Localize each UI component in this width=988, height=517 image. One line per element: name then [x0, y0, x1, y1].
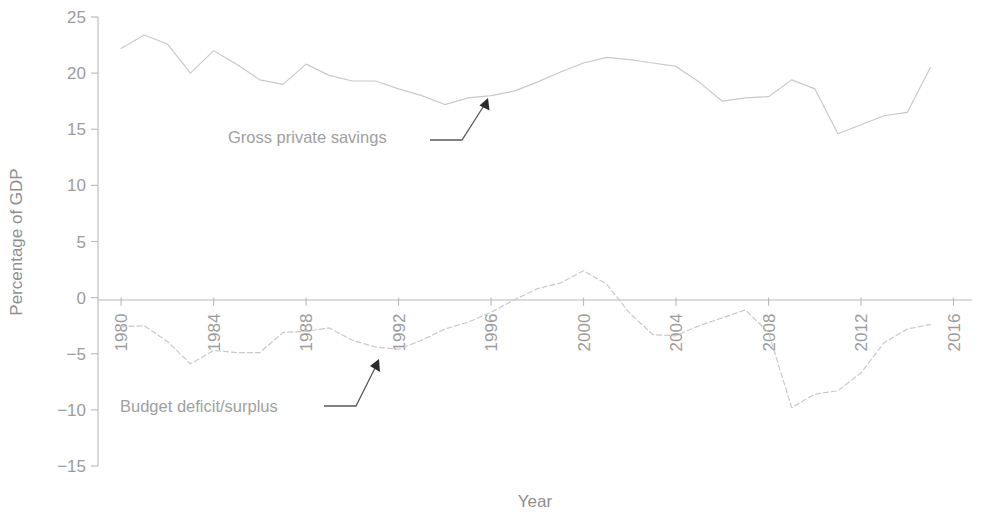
x-axis-title: Year	[518, 492, 553, 511]
y-tick-label: −15	[57, 457, 86, 476]
y-tick-label: 5	[77, 233, 86, 252]
x-tick-label: 1988	[297, 314, 316, 352]
gdp-savings-deficit-line-chart: −15−10−50510152025 198019841988199219962…	[0, 0, 988, 517]
y-tick-label: 15	[67, 120, 86, 139]
chart-background	[0, 0, 988, 517]
x-tick-label: 1992	[390, 314, 409, 352]
x-tick-label: 1980	[112, 314, 131, 352]
y-tick-label: 0	[77, 289, 86, 308]
y-tick-label: 20	[67, 64, 86, 83]
x-tick-label: 2012	[852, 314, 871, 352]
annotation-label-budget: Budget deficit/surplus	[120, 397, 278, 415]
x-tick-label: 2000	[575, 314, 594, 352]
x-tick-label: 1996	[482, 314, 501, 352]
y-tick-label: −10	[57, 401, 86, 420]
chart-figure: −15−10−50510152025 198019841988199219962…	[0, 0, 988, 517]
x-tick-label: 1984	[205, 314, 224, 352]
y-tick-label: −5	[67, 345, 86, 364]
y-tick-label: 25	[67, 8, 86, 27]
annotation-label-savings: Gross private savings	[228, 128, 387, 146]
x-tick-label: 2008	[760, 314, 779, 352]
y-axis-title: Percentage of GDP	[7, 168, 26, 315]
y-tick-label: 10	[67, 176, 86, 195]
x-tick-label: 2016	[945, 314, 964, 352]
